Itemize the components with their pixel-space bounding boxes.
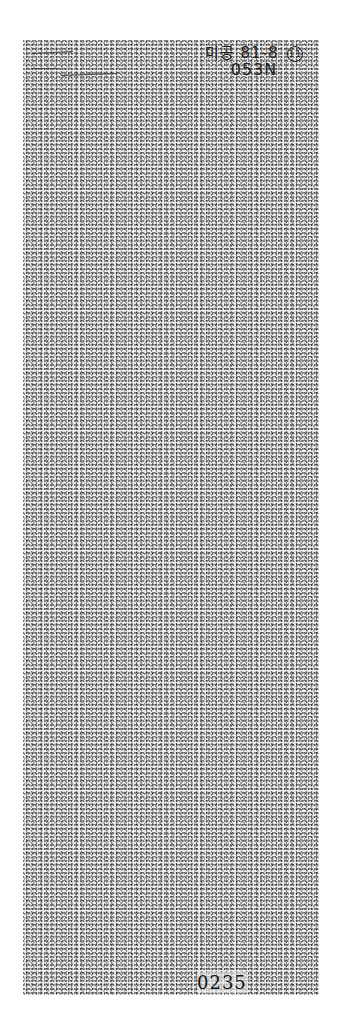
archive-annotation: 미공 81-8 11 053N [199,46,309,79]
archive-subcode: 053N [199,62,309,79]
mark-line [61,73,116,76]
scanned-page: 미공 81-8 11 053N 0235 [23,40,319,995]
circled-number: 11 [287,46,303,62]
illegible-marks [31,48,131,88]
page-number: 0235 [197,972,247,993]
mark-line [33,51,73,54]
mark-line [31,68,59,69]
